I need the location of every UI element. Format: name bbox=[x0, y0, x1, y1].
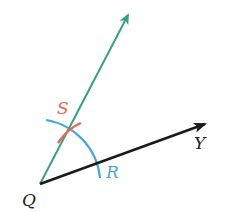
label-y: Y bbox=[194, 133, 207, 153]
label-r: R bbox=[105, 162, 119, 182]
arc-centered-q bbox=[46, 120, 100, 178]
label-q: Q bbox=[22, 190, 36, 210]
construction-diagram: S R Y Q bbox=[0, 0, 231, 212]
ray-qs bbox=[40, 15, 128, 184]
label-s: S bbox=[57, 98, 69, 118]
